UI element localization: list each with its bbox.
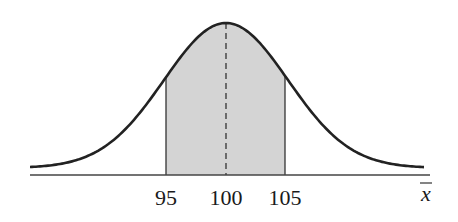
axis-variable-x-bar: x xyxy=(420,181,431,206)
normal-curve-diagram: 95 100 105 x xyxy=(0,0,458,222)
tick-label-100: 100 xyxy=(210,185,243,210)
tick-label-105: 105 xyxy=(269,185,302,210)
tick-label-95: 95 xyxy=(155,185,177,210)
